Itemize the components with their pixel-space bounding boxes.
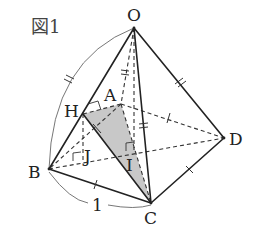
label-o: O — [127, 5, 141, 25]
vertex-o — [133, 27, 136, 30]
label-d: D — [229, 129, 243, 149]
tick-ad — [167, 113, 170, 123]
vertex-c — [150, 202, 153, 205]
vertex-b — [48, 168, 51, 171]
shaded-triangle-hac — [83, 104, 151, 203]
tick-oa — [121, 70, 129, 75]
right-angle-j — [73, 152, 81, 161]
edge-od — [134, 28, 224, 138]
label-i: I — [126, 155, 133, 175]
label-c: C — [144, 208, 157, 228]
figure-title: 図1 — [31, 16, 60, 37]
label-a: A — [103, 85, 117, 105]
label-length-bc: 1 — [92, 195, 103, 215]
label-h: H — [64, 101, 79, 121]
vertex-d — [223, 137, 226, 140]
edge-ad — [121, 104, 224, 138]
tick-arc-ob — [64, 75, 74, 83]
pyramid-diagram: 図1 O A H J I B D C 1 — [0, 0, 255, 242]
edge-cd — [151, 138, 224, 203]
label-b: B — [28, 162, 41, 182]
label-j: J — [82, 146, 91, 166]
